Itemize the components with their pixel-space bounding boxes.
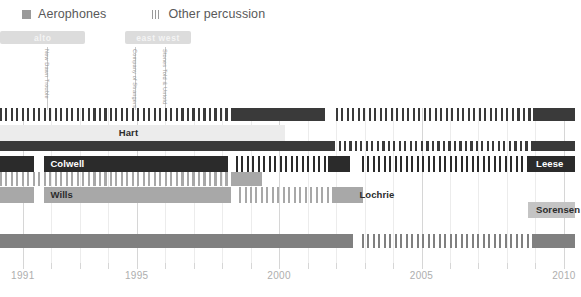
legend-swatch-icon	[152, 10, 161, 19]
axis-label-1995: 1995	[125, 270, 148, 281]
lane-1-ticks-segment-2	[231, 108, 325, 121]
axis-label-2000: 2000	[267, 270, 290, 281]
lane-2-dark	[0, 141, 581, 151]
axis-tick-2008	[507, 263, 508, 269]
lane-2-dark-segment-1	[0, 141, 333, 151]
lane-lochrie: Lochrie	[0, 187, 581, 203]
lane-bottom-segment-1	[0, 234, 353, 248]
lane-sorensen: Sorensen	[0, 202, 581, 218]
event-caption-3: Stones Told & Untold	[162, 49, 168, 104]
legend-item-1[interactable]: Aerophones	[22, 7, 106, 21]
axis-tick-1998	[222, 263, 223, 269]
era-label: alto	[34, 33, 52, 43]
era-band-2: east west	[125, 31, 191, 44]
axis-tick-2007	[478, 263, 479, 269]
lane-hart: Hart	[0, 125, 581, 141]
axis-tick-2002	[336, 263, 337, 269]
legend-label: Aerophones	[38, 7, 106, 21]
axis-tick-1992	[51, 263, 52, 269]
event-caption-1: New Dawn Trouble	[44, 49, 50, 99]
axis-tick-1997	[194, 263, 195, 269]
axis-tick-2001	[308, 263, 309, 269]
axis-tick-2000	[279, 263, 280, 269]
lane-hart-segment-2	[231, 125, 285, 141]
era-band-1: alto	[0, 31, 85, 44]
axis-label-2010: 2010	[552, 270, 575, 281]
lane-2-dark-segment-2	[333, 141, 532, 151]
bar-label-leese: Leese	[536, 159, 563, 169]
timeline-chart: AerophonesOther percussion altoeast west…	[0, 0, 581, 297]
axis-tick-2003	[365, 263, 366, 269]
axis-tick-2005	[422, 263, 423, 269]
bar-label-lochrie: Lochrie	[359, 190, 394, 200]
lane-3-mid-segment-1	[0, 172, 231, 186]
legend-label: Other percussion	[168, 7, 265, 21]
lane-1-ticks-segment-3	[336, 108, 533, 121]
axis-tick-2004	[393, 263, 394, 269]
lane-bottom-segment-3	[533, 234, 576, 248]
event-caption-2: Company of Strangers	[132, 49, 138, 108]
bar-label-sorensen: Sorensen	[536, 205, 580, 215]
legend-item-2[interactable]: Other percussion	[152, 7, 265, 21]
lane-1-ticks-segment-4	[533, 108, 576, 121]
lane-bottom-segment-2	[362, 234, 533, 248]
axis-tick-1993	[80, 263, 81, 269]
lane-3-mid-segment-2	[231, 172, 262, 186]
lane-hart-segment-1	[0, 125, 231, 141]
time-axis: 19911995200020052010	[0, 263, 581, 297]
axis-tick-1996	[165, 263, 166, 269]
axis-label-2005: 2005	[410, 270, 433, 281]
axis-tick-2009	[535, 263, 536, 269]
chart-legend: AerophonesOther percussion	[22, 7, 265, 21]
axis-tick-1994	[108, 263, 109, 269]
axis-tick-2010	[564, 263, 565, 269]
legend-swatch-icon	[22, 10, 31, 19]
lane-1-ticks-segment-1	[0, 108, 231, 121]
axis-tick-1995	[137, 263, 138, 269]
axis-tick-1999	[251, 263, 252, 269]
axis-tick-2006	[450, 263, 451, 269]
lane-bottom	[0, 234, 581, 248]
timeline-plot-area: HartColwellLeeseWillsLochrieSorensen	[0, 108, 581, 263]
lane-1-ticks	[0, 108, 581, 121]
lane-leese: Leese	[0, 156, 581, 172]
lane-3-mid	[0, 172, 581, 186]
axis-tick-1991	[23, 263, 24, 269]
lane-2-dark-segment-3	[533, 141, 576, 151]
era-label: east west	[136, 33, 180, 43]
axis-label-1991: 1991	[11, 270, 34, 281]
bar-label-hart: Hart	[119, 128, 138, 138]
